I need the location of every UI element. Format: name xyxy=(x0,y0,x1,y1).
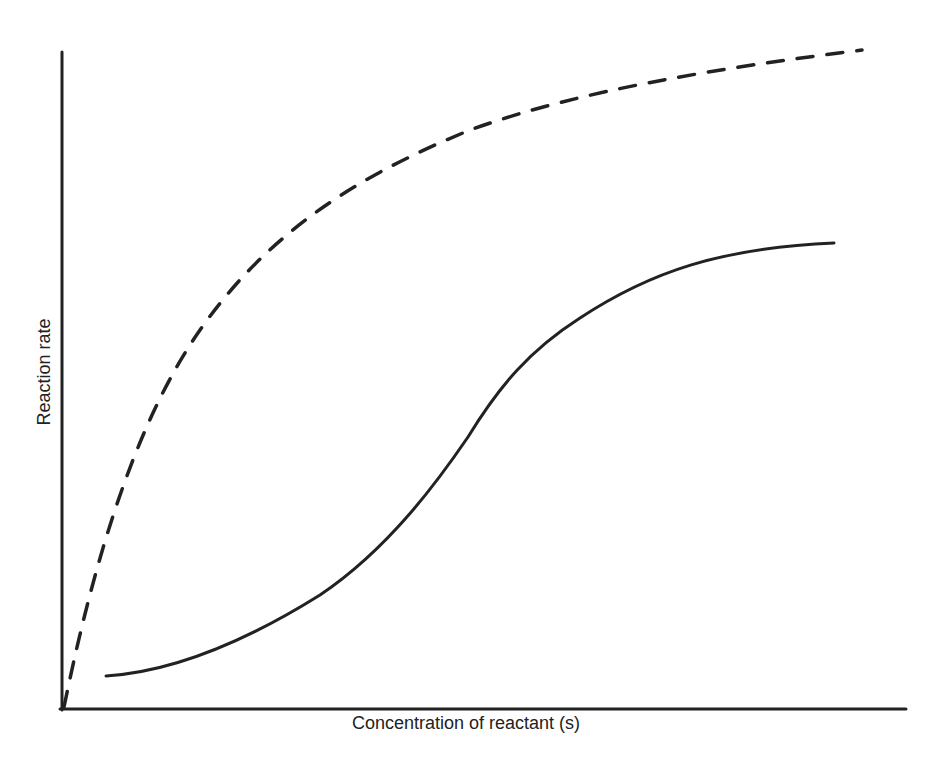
chart-canvas xyxy=(0,0,938,762)
y-axis-label: Reaction rate xyxy=(34,318,55,425)
x-axis-label: Concentration of reactant (s) xyxy=(352,713,580,734)
dashed-curve xyxy=(64,50,862,707)
